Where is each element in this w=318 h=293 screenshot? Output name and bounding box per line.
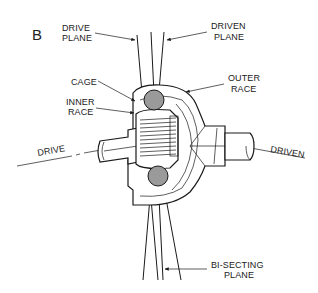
svg-text:PLANE: PLANE	[224, 270, 254, 280]
label-bisecting-plane: BI-SECTING PLANE	[165, 260, 264, 280]
svg-text:PLANE: PLANE	[62, 33, 92, 43]
panel-letter: B	[32, 26, 42, 43]
svg-text:BI-SECTING: BI-SECTING	[211, 260, 264, 270]
label-driven-plane: DRIVEN PLANE	[167, 21, 246, 42]
svg-text:DRIVE: DRIVE	[62, 23, 90, 33]
label-outer-race: OUTER RACE	[186, 73, 260, 94]
svg-text:DRIVEN: DRIVEN	[211, 21, 246, 31]
svg-text:RACE: RACE	[68, 107, 93, 117]
svg-text:INNER: INNER	[66, 97, 95, 107]
label-drive-plane: DRIVE PLANE	[62, 23, 135, 43]
cv-joint-diagram: B	[0, 0, 318, 293]
label-inner-race: INNER RACE	[66, 97, 134, 117]
inner-race-shaft	[98, 110, 178, 169]
svg-text:PLANE: PLANE	[214, 32, 244, 42]
svg-text:CAGE: CAGE	[71, 77, 97, 87]
svg-text:RACE: RACE	[231, 84, 256, 94]
top-ball	[144, 90, 164, 110]
svg-text:OUTER: OUTER	[228, 73, 260, 83]
label-drive-axis: DRIVE	[37, 143, 66, 158]
bottom-ball	[148, 166, 168, 186]
label-driven-axis: DRIVEN	[270, 144, 306, 160]
